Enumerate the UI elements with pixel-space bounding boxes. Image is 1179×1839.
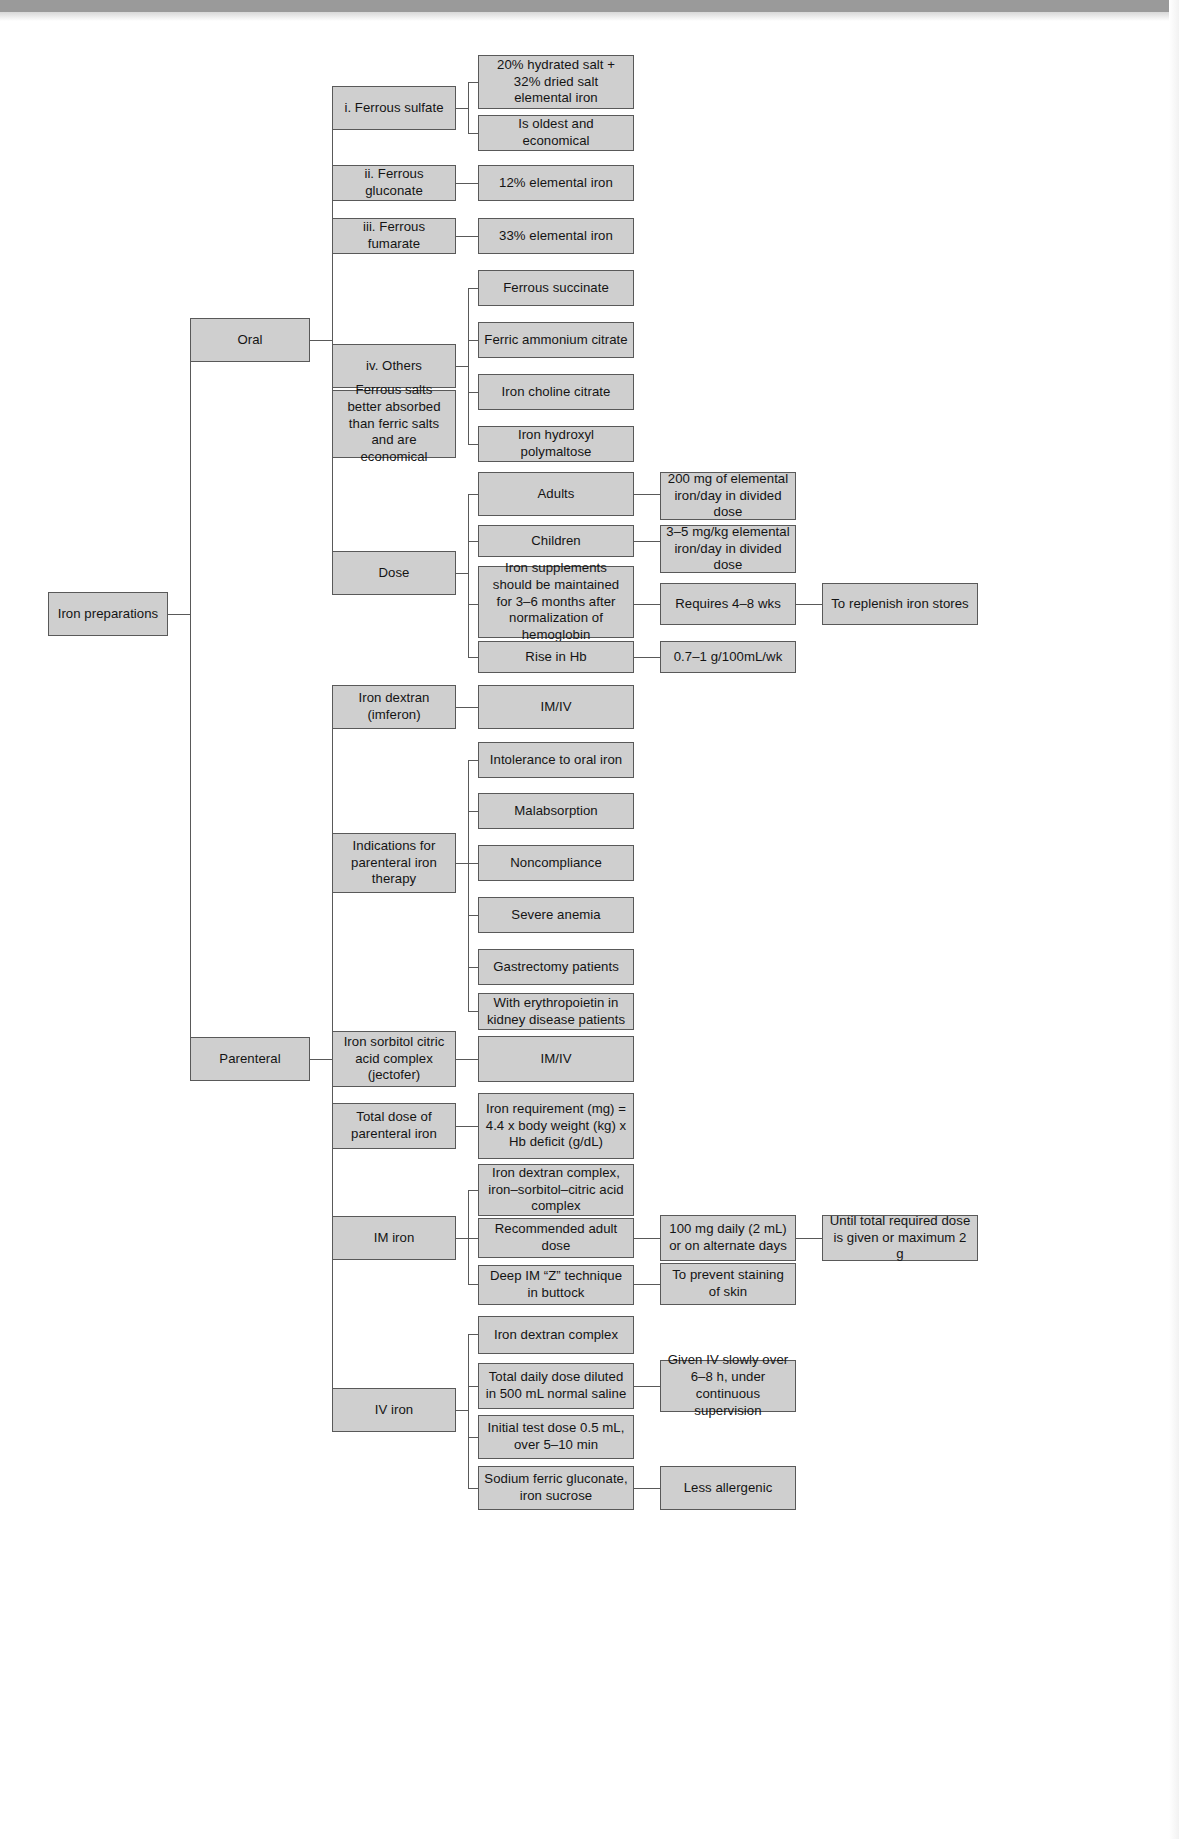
node-label: Iron choline citrate	[502, 384, 611, 401]
connector-sulfate-d2	[468, 133, 478, 134]
node-label: Sodium ferric gluconate, iron sucrose	[484, 1471, 628, 1505]
node-iron-sorbitol[interactable]: Iron sorbitol citric acid complex (jecto…	[332, 1031, 456, 1087]
node-dose-children[interactable]: Children	[478, 525, 634, 557]
node-im-detail-3-reason[interactable]: To prevent staining of skin	[660, 1263, 796, 1305]
node-iv-detail-2[interactable]: Total daily dose diluted in 500 mL norma…	[478, 1363, 634, 1409]
connector-sulfate-out	[456, 108, 468, 109]
connector-iv-1	[468, 1334, 478, 1335]
connector-im3-detail	[634, 1284, 660, 1285]
node-label: Iron dextran complex, iron–sorbitol–citr…	[484, 1165, 628, 1216]
node-label: Noncompliance	[510, 855, 602, 872]
node-root-iron-preparations[interactable]: Iron preparations	[48, 592, 168, 636]
node-others-detail-4[interactable]: Iron hydroxyl polymaltose	[478, 426, 634, 462]
node-iv-detail-1[interactable]: Iron dextran complex	[478, 1316, 634, 1354]
node-ferrous-salts-note[interactable]: Ferrous salts better absorbed than ferri…	[332, 390, 456, 458]
node-label: 0.7–1 g/100mL/wk	[674, 649, 783, 666]
node-label: Iron dextran (imferon)	[338, 690, 450, 724]
node-label: Intolerance to oral iron	[490, 752, 622, 769]
node-indication-4[interactable]: Severe anemia	[478, 897, 634, 933]
node-ferrous-fumarate-detail-1[interactable]: 33% elemental iron	[478, 218, 634, 254]
node-iv-detail-3[interactable]: Initial test dose 0.5 mL, over 5–10 min	[478, 1415, 634, 1459]
node-label: Ferric ammonium citrate	[484, 332, 627, 349]
node-indication-2[interactable]: Malabsorption	[478, 793, 634, 829]
connector-adults-detail	[634, 494, 660, 495]
node-ferrous-sulfate-detail-2[interactable]: Is oldest and economical	[478, 115, 634, 151]
node-im-detail-3[interactable]: Deep IM “Z” technique in buttock	[478, 1265, 634, 1305]
connector-others-d2	[468, 340, 478, 341]
connector-iviron-spine	[468, 1334, 469, 1488]
node-others-detail-2[interactable]: Ferric ammonium citrate	[478, 322, 634, 358]
connector-ind-1	[468, 760, 478, 761]
node-im-detail-2[interactable]: Recommended adult dose	[478, 1218, 634, 1258]
node-im-iron[interactable]: IM iron	[332, 1216, 456, 1260]
node-iron-dextran-detail[interactable]: IM/IV	[478, 685, 634, 729]
node-ferrous-sulfate[interactable]: i. Ferrous sulfate	[332, 86, 456, 130]
connector-sorbitol-detail	[456, 1059, 478, 1060]
node-indication-3[interactable]: Noncompliance	[478, 845, 634, 881]
node-branch-parenteral[interactable]: Parenteral	[190, 1037, 310, 1081]
connector-others-d4	[468, 444, 478, 445]
node-label: Iron preparations	[58, 606, 159, 623]
node-label: Parenteral	[219, 1051, 280, 1068]
node-label: Initial test dose 0.5 mL, over 5–10 min	[484, 1420, 628, 1454]
node-branch-oral[interactable]: Oral	[190, 318, 310, 362]
node-iron-dextran[interactable]: Iron dextran (imferon)	[332, 685, 456, 729]
node-total-dose[interactable]: Total dose of parenteral iron	[332, 1103, 456, 1149]
node-label: Requires 4–8 wks	[675, 596, 781, 613]
node-label: To prevent staining of skin	[666, 1267, 790, 1301]
node-dose-rise-hb[interactable]: Rise in Hb	[478, 641, 634, 673]
connector-ind-4	[468, 915, 478, 916]
node-label: i. Ferrous sulfate	[344, 100, 443, 117]
node-ferrous-sulfate-detail-1[interactable]: 20% hydrated salt + 32% dried salt eleme…	[478, 55, 634, 109]
node-dose[interactable]: Dose	[332, 551, 456, 595]
node-label: Oral	[237, 332, 262, 349]
connector-im-1	[468, 1190, 478, 1191]
connector-fumarate-d1	[456, 236, 478, 237]
node-label: iv. Others	[366, 358, 422, 375]
node-dose-supplements-detail[interactable]: Requires 4–8 wks	[660, 583, 796, 625]
node-dose-supplements[interactable]: Iron supplements should be maintained fo…	[478, 566, 634, 638]
node-others-detail-3[interactable]: Iron choline citrate	[478, 374, 634, 410]
connector-indications-spine	[468, 760, 469, 1011]
node-ferrous-gluconate[interactable]: ii. Ferrous gluconate	[332, 165, 456, 201]
node-replenish-iron-stores[interactable]: To replenish iron stores	[822, 583, 978, 625]
node-iv-iron[interactable]: IV iron	[332, 1388, 456, 1432]
connector-dose-out	[456, 573, 468, 574]
node-label: Is oldest and economical	[484, 116, 628, 150]
node-iron-sorbitol-detail[interactable]: IM/IV	[478, 1036, 634, 1082]
node-indications[interactable]: Indications for parenteral iron therapy	[332, 833, 456, 893]
node-ferrous-gluconate-detail-1[interactable]: 12% elemental iron	[478, 165, 634, 201]
connector-iv-3	[468, 1437, 478, 1438]
node-im-detail-1[interactable]: Iron dextran complex, iron–sorbitol–citr…	[478, 1164, 634, 1216]
node-total-dose-detail[interactable]: Iron requirement (mg) = 4.4 x body weigh…	[478, 1093, 634, 1159]
node-indication-6[interactable]: With erythropoietin in kidney disease pa…	[478, 993, 634, 1030]
connector-imiron-spine	[468, 1190, 469, 1284]
node-iv-detail-4-allergy[interactable]: Less allergenic	[660, 1466, 796, 1510]
node-ferrous-fumarate[interactable]: iii. Ferrous fumarate	[332, 218, 456, 254]
node-label: IM iron	[374, 1230, 415, 1247]
node-iv-detail-4[interactable]: Sodium ferric gluconate, iron sucrose	[478, 1466, 634, 1510]
node-dose-adults[interactable]: Adults	[478, 472, 634, 516]
connector-im2-detail2	[796, 1238, 822, 1239]
node-dose-children-detail[interactable]: 3–5 mg/kg elemental iron/day in divided …	[660, 525, 796, 573]
node-im-detail-2-until[interactable]: Until total required dose is given or ma…	[822, 1215, 978, 1261]
node-indication-5[interactable]: Gastrectomy patients	[478, 949, 634, 985]
node-dose-adults-detail[interactable]: 200 mg of elemental iron/day in divided …	[660, 472, 796, 520]
node-label: Iron supplements should be maintained fo…	[484, 560, 628, 644]
connector-others-spine	[468, 288, 469, 445]
node-dose-rise-hb-detail[interactable]: 0.7–1 g/100mL/wk	[660, 641, 796, 673]
node-indication-1[interactable]: Intolerance to oral iron	[478, 742, 634, 778]
connector-dextran-detail	[456, 707, 478, 708]
node-label: IV iron	[375, 1402, 413, 1419]
connector-sulfate-spine	[468, 82, 469, 134]
node-label: Total daily dose diluted in 500 mL norma…	[484, 1369, 628, 1403]
node-others-detail-1[interactable]: Ferrous succinate	[478, 270, 634, 306]
page-top-band-shadow	[0, 12, 1179, 21]
connector-im-3	[468, 1284, 478, 1285]
connector-main-trunk	[190, 340, 191, 1060]
connector-ind-6	[468, 1011, 478, 1012]
connector-totaldose-detail	[456, 1126, 478, 1127]
node-iv-detail-2-infusion[interactable]: Given IV slowly over 6–8 h, under contin…	[660, 1360, 796, 1412]
node-label: 12% elemental iron	[499, 175, 613, 192]
node-im-detail-2-dose[interactable]: 100 mg daily (2 mL) or on alternate days	[660, 1215, 796, 1261]
